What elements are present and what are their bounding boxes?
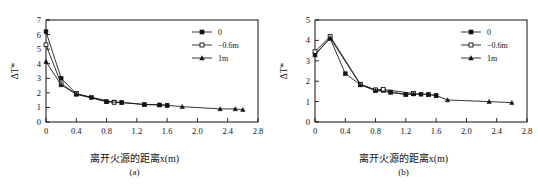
data-point	[44, 43, 48, 47]
y-tick-label: 4	[306, 35, 311, 45]
y-tick-label: 3	[306, 56, 310, 66]
figure-container: 00.40.81.21.62.02.42.801234567ΔT*0−0.6m1…	[0, 0, 538, 185]
y-axis-label: ΔT*	[279, 62, 289, 79]
series-line	[315, 38, 436, 95]
plot-frame	[315, 20, 527, 122]
y-tick-label: 0	[37, 117, 41, 127]
chart-b-caption: (b)	[269, 167, 538, 177]
legend: 0−0.6m1m	[192, 28, 240, 63]
data-point	[343, 72, 347, 76]
y-tick-label: 2	[306, 76, 310, 86]
x-tick-label: 2.8	[253, 126, 264, 136]
legend-marker	[200, 43, 204, 47]
y-tick-label: 1	[306, 97, 310, 107]
x-tick-label: 0.4	[340, 126, 351, 136]
legend: 0−0.6m1m	[461, 28, 509, 63]
y-tick-label: 5	[306, 15, 310, 25]
chart-panel-b: 00.40.81.21.62.02.42.8012345ΔT*0−0.6m1m …	[269, 0, 538, 185]
x-tick-label: 2.0	[461, 126, 472, 136]
y-tick-label: 1	[37, 102, 41, 112]
x-tick-label: 0.8	[101, 126, 112, 136]
legend-label: 0	[487, 28, 491, 37]
y-axis-ticks: 012345	[306, 15, 319, 127]
series-line	[46, 45, 114, 103]
series-3	[44, 59, 245, 111]
legend-marker	[469, 43, 473, 47]
plot-frame	[46, 20, 258, 122]
x-tick-label: 2.8	[522, 126, 533, 136]
series-line	[315, 36, 413, 93]
legend-marker	[200, 30, 204, 34]
series-line	[46, 32, 167, 106]
x-tick-label: 2.4	[491, 126, 502, 136]
chart-a-caption: (a)	[0, 167, 269, 177]
data-point	[44, 59, 48, 63]
chart-a-xlabel: 离开火源的距离x(m)	[0, 150, 269, 165]
x-tick-label: 1.6	[431, 126, 442, 136]
axes-box	[46, 20, 258, 122]
x-tick-label: 0	[44, 126, 48, 136]
y-tick-label: 5	[37, 44, 41, 54]
x-tick-label: 1.2	[132, 126, 143, 136]
series-3	[313, 36, 514, 105]
data-point	[381, 87, 385, 91]
legend-label: 1m	[218, 54, 229, 63]
legend-marker	[469, 30, 473, 34]
legend-label: 1m	[487, 54, 498, 63]
legend-label: −0.6m	[487, 41, 509, 50]
chart-b-xlabel: 离开火源的距离x(m)	[269, 150, 538, 165]
y-tick-label: 4	[37, 59, 42, 69]
chart-a-svg: 00.40.81.21.62.02.42.801234567ΔT*0−0.6m1…	[0, 0, 269, 150]
x-axis-ticks: 00.40.81.21.62.02.42.8	[44, 118, 263, 136]
data-point	[44, 30, 48, 34]
x-tick-label: 0.8	[370, 126, 381, 136]
y-tick-label: 2	[37, 88, 41, 98]
y-axis-label: ΔT*	[10, 62, 20, 79]
chart-b-svg: 00.40.81.21.62.02.42.8012345ΔT*0−0.6m1m	[269, 0, 538, 150]
legend-label: −0.6m	[218, 41, 240, 50]
y-tick-label: 7	[37, 15, 41, 25]
x-tick-label: 2.0	[192, 126, 203, 136]
x-tick-label: 1.2	[401, 126, 412, 136]
series-1	[44, 30, 169, 107]
chart-panel-a: 00.40.81.21.62.02.42.801234567ΔT*0−0.6m1…	[0, 0, 269, 185]
x-axis-ticks: 00.40.81.21.62.02.42.8	[313, 118, 532, 136]
y-tick-label: 6	[37, 30, 41, 40]
y-tick-label: 0	[306, 117, 310, 127]
x-tick-label: 2.4	[222, 126, 233, 136]
y-tick-label: 3	[37, 73, 41, 83]
x-tick-label: 1.6	[162, 126, 173, 136]
legend-label: 0	[218, 28, 222, 37]
x-tick-label: 0	[313, 126, 317, 136]
x-tick-label: 0.4	[71, 126, 82, 136]
axes-box	[315, 20, 527, 122]
